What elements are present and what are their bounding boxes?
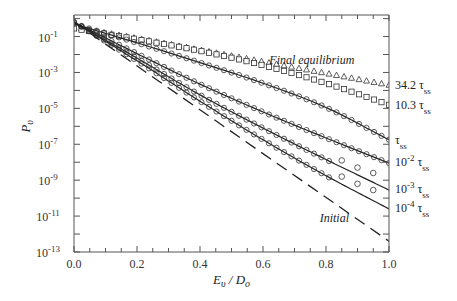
square-marker — [146, 39, 151, 44]
square-marker — [334, 84, 339, 89]
circle-marker — [339, 174, 345, 180]
square-marker — [364, 94, 369, 99]
square-marker — [356, 92, 361, 97]
y-tick-label: 10-3 — [38, 64, 58, 80]
square-marker — [214, 52, 219, 57]
y-tick-label: 10-13 — [36, 244, 60, 260]
triangle-marker — [326, 71, 332, 76]
series-label: 10-3 τss — [395, 180, 430, 200]
square-marker — [379, 100, 384, 105]
x-tick-label: 0.0 — [67, 257, 82, 271]
square-marker — [221, 53, 226, 58]
y-tick-label: 10-7 — [38, 136, 58, 152]
square-marker — [281, 68, 286, 73]
triangle-marker — [311, 68, 317, 73]
triangle-marker — [379, 80, 385, 85]
square-marker — [304, 75, 309, 80]
square-marker — [206, 50, 211, 55]
square-marker — [296, 72, 301, 77]
square-marker — [184, 46, 189, 51]
series-label: 10-4 τss — [395, 199, 430, 219]
square-marker — [176, 44, 181, 49]
square-marker — [191, 47, 196, 52]
triangle-marker — [364, 78, 370, 83]
y-tick-label: 10-11 — [36, 208, 60, 224]
series-circles-line — [71, 21, 391, 142]
fit-curve — [74, 24, 389, 140]
series-label: 10.3 τss — [395, 98, 431, 116]
circle-marker — [339, 158, 345, 164]
square-marker — [326, 82, 331, 87]
triangle-marker — [371, 79, 377, 84]
square-marker — [236, 57, 241, 62]
x-tick-label: 0.2 — [130, 257, 145, 271]
series-label: τss — [395, 133, 407, 151]
y-tick-label: 10-1 — [38, 29, 58, 45]
y-tick-label: 10-9 — [38, 172, 58, 188]
x-tick-label: 0.8 — [319, 257, 334, 271]
square-marker — [161, 41, 166, 46]
square-marker — [199, 49, 204, 54]
series-label: 34.2 τss — [395, 78, 431, 96]
triangle-marker — [319, 69, 325, 74]
square-marker — [251, 60, 256, 65]
circle-marker — [355, 165, 361, 171]
chart-canvas: 0.00.20.40.60.81.010-110-310-510-710-910… — [0, 0, 457, 301]
square-marker — [244, 59, 249, 64]
annotation-label: Final equilibrium — [268, 53, 354, 67]
square-marker — [289, 70, 294, 75]
series-circles-line — [71, 20, 391, 166]
square-marker — [319, 79, 324, 84]
circle-marker — [355, 181, 361, 187]
square-marker — [259, 62, 264, 67]
square-marker — [154, 40, 159, 45]
circle-marker — [370, 170, 376, 176]
x-tick-label: 0.4 — [193, 257, 208, 271]
circle-marker — [370, 187, 376, 193]
square-marker — [311, 77, 316, 82]
series-circles-line — [71, 20, 389, 191]
square-marker — [341, 87, 346, 92]
square-marker — [371, 97, 376, 102]
triangle-marker — [341, 73, 347, 78]
triangle-marker — [349, 75, 355, 80]
x-tick-label: 1.0 — [382, 257, 397, 271]
square-marker — [169, 43, 174, 48]
x-axis-label: Eυ / Do — [212, 272, 250, 289]
annotation-label: Initial — [319, 211, 350, 225]
square-marker — [229, 55, 234, 60]
y-tick-label: 10-5 — [38, 100, 58, 116]
triangle-marker — [334, 72, 340, 77]
series-label: 10-2 τss — [395, 153, 430, 173]
square-marker — [349, 89, 354, 94]
y-axis-label: Pυ — [18, 120, 35, 134]
x-tick-label: 0.6 — [256, 257, 271, 271]
triangle-marker — [356, 76, 362, 81]
